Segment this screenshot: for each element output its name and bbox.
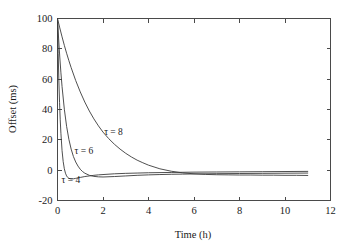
x-tick-label: 4 (146, 205, 152, 216)
y-tick-label: 80 (42, 43, 53, 54)
x-tick-label: 10 (280, 205, 291, 216)
x-tick-label: 0 (55, 205, 60, 216)
x-axis-title: Time (h) (175, 229, 212, 241)
x-tick-label: 6 (191, 205, 196, 216)
y-tick-label: 0 (47, 165, 52, 176)
y-tick-label: 40 (42, 104, 53, 115)
x-axis-ticks: 024681012 (55, 19, 336, 216)
y-tick-label: 60 (42, 74, 53, 85)
y-tick-label: 100 (37, 13, 53, 24)
data-curve (58, 19, 308, 176)
line-chart: 024681012 -20020406080100 τ = 8τ = 6τ = … (0, 0, 354, 247)
data-curve (58, 19, 308, 179)
y-tick-label: 20 (42, 134, 53, 145)
x-tick-label: 12 (325, 205, 336, 216)
x-tick-label: 8 (237, 205, 242, 216)
curve-annotation-label: τ = 6 (75, 146, 94, 156)
curve-annotation-label: τ = 8 (104, 127, 123, 137)
data-series-group (58, 19, 308, 179)
curve-annotation-label: τ = 4 (62, 175, 81, 185)
chart-figure: 024681012 -20020406080100 τ = 8τ = 6τ = … (0, 0, 354, 247)
y-tick-label: -20 (39, 195, 53, 206)
x-tick-label: 2 (100, 205, 105, 216)
data-curve (58, 19, 308, 177)
y-axis-title: Offset (ms) (7, 85, 19, 133)
